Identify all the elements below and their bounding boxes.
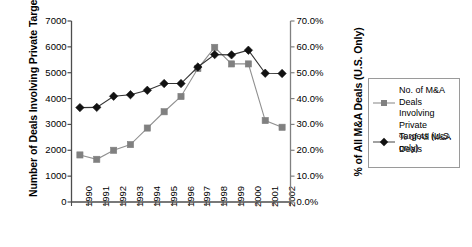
data-point-diamond [143, 86, 151, 94]
data-point-square [178, 93, 184, 99]
data-point-square [144, 125, 150, 131]
data-point-square [228, 61, 234, 67]
data-point-diamond [126, 90, 134, 98]
data-point-square [161, 109, 167, 115]
data-point-diamond [261, 69, 269, 77]
data-point-diamond [109, 92, 117, 100]
data-point-square [245, 61, 251, 67]
data-point-diamond [278, 69, 286, 77]
data-point-diamond [244, 46, 252, 54]
chart-legend: No. of M&A Deals Involving Private Targe… [368, 78, 460, 168]
data-point-diamond [93, 103, 101, 111]
data-point-diamond [76, 103, 84, 111]
data-point-diamond [227, 51, 235, 59]
data-point-diamond [160, 79, 168, 87]
data-point-square [77, 152, 83, 158]
data-point-square [127, 142, 133, 148]
data-point-square [212, 44, 218, 50]
data-point-square [94, 156, 100, 162]
data-point-square [279, 124, 285, 130]
legend-square-marker-icon [371, 97, 397, 109]
legend-entry-deals-percent: % of All M&A Deals [399, 132, 457, 155]
data-point-square [111, 147, 117, 153]
chart-figure: Number of Deals Involving Private Target… [0, 0, 472, 247]
series-deals-percent [76, 46, 287, 112]
series-deals-count [77, 44, 285, 162]
data-point-square [262, 117, 268, 123]
legend-diamond-marker-icon [371, 136, 397, 148]
